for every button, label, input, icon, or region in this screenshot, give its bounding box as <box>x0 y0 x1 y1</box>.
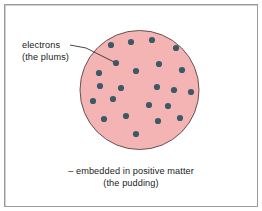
electron-dot <box>101 116 107 122</box>
electron-dot <box>146 102 152 108</box>
electron-dot <box>177 115 183 121</box>
electron-dot <box>179 67 185 73</box>
electron-dot <box>96 70 102 76</box>
electron-dot <box>154 84 160 90</box>
caption-line2: (the pudding) <box>0 178 262 190</box>
positive-matter-sphere <box>80 31 199 150</box>
figure-caption: – embedded in positive matter (the puddi… <box>0 166 262 189</box>
electron-dot <box>155 118 161 124</box>
electron-dot <box>118 85 124 91</box>
electrons-label-line2: (the plums) <box>22 52 69 64</box>
electron-dot <box>123 113 129 119</box>
electron-dot <box>97 83 103 89</box>
electron-dot <box>110 96 116 102</box>
electrons-label: electrons (the plums) <box>22 40 69 63</box>
electron-dot <box>90 98 96 104</box>
electron-dot <box>173 45 179 51</box>
electron-dot <box>108 42 114 48</box>
electron-dot <box>156 61 162 67</box>
electron-dot <box>133 131 139 137</box>
electron-dot <box>133 68 139 74</box>
electrons-label-line1: electrons <box>22 40 69 52</box>
electron-dot <box>128 39 134 45</box>
electron-dot <box>171 87 177 93</box>
electron-dot <box>188 89 194 95</box>
electron-dot <box>149 37 155 43</box>
caption-line1: – embedded in positive matter <box>0 166 262 178</box>
figure-root: electrons (the plums) – embedded in posi… <box>0 0 262 211</box>
electron-dot <box>113 60 119 66</box>
electron-dot <box>165 103 171 109</box>
